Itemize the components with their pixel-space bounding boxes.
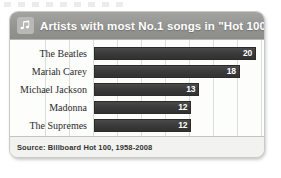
bar-fill: 20: [94, 47, 256, 60]
bar-value-label: 20: [243, 49, 255, 58]
bar-value-label: 18: [227, 67, 239, 76]
bar-chart-plot: The Beatles 20 Mariah Carey 18 Michael J…: [10, 40, 264, 137]
bar-fill: 13: [94, 83, 199, 96]
bar-category-label: Mariah Carey: [10, 66, 94, 77]
chart-title: Artists with most No.1 songs in "Hot 100…: [40, 20, 265, 32]
bar-track: 20: [94, 47, 264, 60]
bar-category-label: The Supremes: [10, 120, 94, 131]
card-header: Artists with most No.1 songs in "Hot 100…: [10, 12, 264, 40]
bar-category-label: Michael Jackson: [10, 84, 94, 95]
bar-value-label: 13: [186, 85, 198, 94]
scan-artifact-strip: [4, 2, 124, 7]
bar-row: Michael Jackson 13: [10, 80, 264, 98]
bar-row: The Supremes 12: [10, 116, 264, 134]
bar-track: 12: [94, 119, 264, 132]
source-note: Source: Billboard Hot 100, 1958-2008: [10, 143, 152, 152]
bar-row: Madonna 12: [10, 98, 264, 116]
card-footer: Source: Billboard Hot 100, 1958-2008: [10, 136, 264, 157]
bar-track: 18: [94, 65, 264, 78]
infographic-card: Artists with most No.1 songs in "Hot 100…: [9, 11, 265, 158]
bar-fill: 18: [94, 65, 240, 78]
bar-category-label: The Beatles: [10, 48, 94, 59]
bar-row: Mariah Carey 18: [10, 62, 264, 80]
bar-fill: 12: [94, 119, 191, 132]
bar-category-label: Madonna: [10, 102, 94, 113]
bar-fill: 12: [94, 101, 191, 114]
bar-value-label: 12: [178, 121, 190, 130]
bar-value-label: 12: [178, 103, 190, 112]
bar-track: 13: [94, 83, 264, 96]
bar-track: 12: [94, 101, 264, 114]
music-note-icon: [17, 17, 34, 34]
bar-row: The Beatles 20: [10, 44, 264, 62]
